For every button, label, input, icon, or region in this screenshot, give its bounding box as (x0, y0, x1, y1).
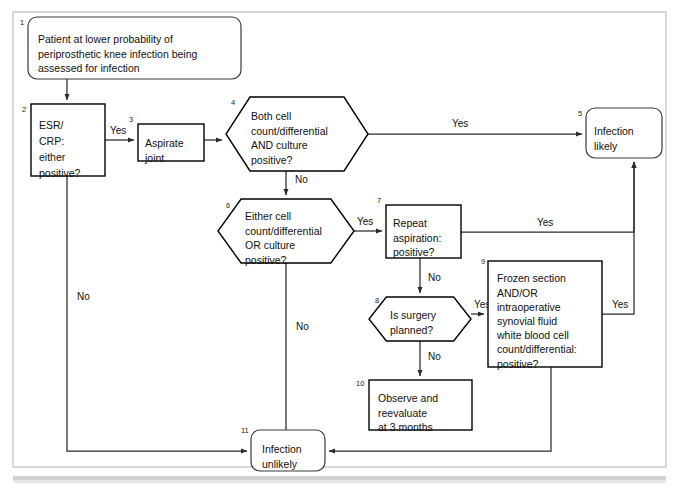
node-n8[interactable]: 8Is surgeryplanned? (369, 296, 471, 341)
edge-label: Yes (110, 125, 126, 136)
node-number: 1 (20, 18, 24, 27)
edge-e5: No (286, 171, 308, 195)
edge-e9: No (420, 258, 441, 293)
edge-e6: Yes (354, 216, 382, 231)
edge-e12: Yes (602, 162, 634, 314)
edge-e8: Yes (461, 162, 634, 232)
node-number: 11 (241, 426, 249, 435)
edge-e11: No (420, 341, 441, 376)
node-n3[interactable]: 3Aspiratejoint (129, 115, 204, 164)
node-n9[interactable]: 9Frozen sectionAND/ORintraoperativesynov… (481, 257, 602, 370)
node-n2[interactable]: 2ESR/CRP:eitherpositive? (22, 104, 105, 179)
footer-band (0, 476, 679, 483)
node-n10[interactable]: 10Observe andreevaluateat 3 months (356, 379, 472, 433)
node-n1[interactable]: 1Patient at lower probability ofperipros… (20, 17, 241, 79)
edge-label: No (77, 291, 90, 302)
node-number: 2 (22, 105, 26, 114)
flowchart-canvas: YesYesNoYesNoYesNoYesNoYesNoNo 1Patient … (0, 0, 679, 492)
node-number: 10 (356, 379, 364, 388)
edge-path (602, 162, 634, 314)
footer-band-light (13, 480, 666, 483)
node-n4[interactable]: 4Both cellcount/differentialAND culturep… (226, 97, 368, 171)
edge-label: No (428, 272, 441, 283)
nodes-layer: 1Patient at lower probability ofperipros… (20, 17, 662, 471)
node-number: 4 (231, 98, 235, 107)
edge-label: Yes (537, 217, 553, 228)
edge-label: Yes (452, 118, 468, 129)
node-n5[interactable]: 5Infectionlikely (578, 108, 662, 158)
edge-e2: Yes (105, 125, 134, 140)
footer-band-dark (13, 476, 666, 480)
flowchart-figure: YesYesNoYesNoYesNoYesNoYesNoNo 1Patient … (0, 0, 679, 492)
node-number: 8 (375, 296, 379, 305)
node-n7[interactable]: 7Repeataspiration:positive? (377, 196, 461, 258)
edge-label: No (428, 351, 441, 362)
node-n6[interactable]: 6Either cellcount/differentialOR culture… (218, 199, 354, 266)
edge-label: Yes (357, 216, 373, 227)
edge-e14: No (67, 176, 247, 451)
node-number: 6 (226, 201, 230, 210)
node-number: 5 (578, 109, 582, 118)
node-n11[interactable]: 11Infectionunlikely (241, 426, 325, 471)
node-number: 9 (481, 257, 485, 266)
node-number: 7 (377, 196, 381, 205)
node-number: 3 (129, 115, 133, 124)
edge-label: Yes (612, 299, 628, 310)
edge-path (67, 176, 247, 451)
edge-label: No (296, 321, 309, 332)
edge-e4: Yes (368, 118, 582, 134)
edge-e7: No (286, 263, 309, 447)
edge-label: No (295, 174, 308, 185)
